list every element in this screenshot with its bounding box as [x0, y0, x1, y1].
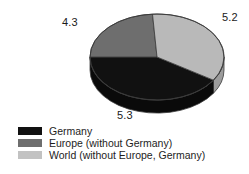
data-label-germany: 5.3 — [117, 109, 133, 121]
chart-legend: Germany Europe (without Germany) World (… — [18, 125, 205, 161]
pie-slice-europe — [90, 14, 157, 57]
data-label-europe: 4.3 — [62, 16, 78, 28]
legend-label-germany: Germany — [49, 125, 92, 137]
legend-item-germany: Germany — [18, 125, 205, 137]
legend-item-world: World (without Europe, Germany) — [18, 149, 205, 161]
legend-label-europe: Europe (without Germany) — [49, 137, 172, 149]
legend-item-europe: Europe (without Germany) — [18, 137, 205, 149]
data-label-world: 5.2 — [222, 11, 238, 23]
pie-chart-figure: 4.3 5.2 5.3 Germany Europe (without Germ… — [0, 0, 249, 174]
legend-swatch-world — [18, 151, 42, 159]
legend-swatch-europe — [18, 139, 42, 147]
legend-swatch-germany — [18, 127, 42, 135]
legend-label-world: World (without Europe, Germany) — [49, 149, 205, 161]
